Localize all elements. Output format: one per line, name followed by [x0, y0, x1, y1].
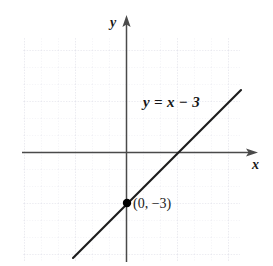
y-intercept-point [123, 199, 131, 207]
x-axis-label: x [252, 158, 259, 172]
graph-figure: y x y = x − 3 (0, −3) [0, 0, 273, 266]
y-axis-label: y [110, 16, 116, 30]
equation-label: y = x − 3 [143, 94, 200, 111]
coordinate-plane [0, 0, 273, 266]
point-coordinate-label: (0, −3) [133, 196, 171, 212]
grid-lines [22, 38, 240, 262]
